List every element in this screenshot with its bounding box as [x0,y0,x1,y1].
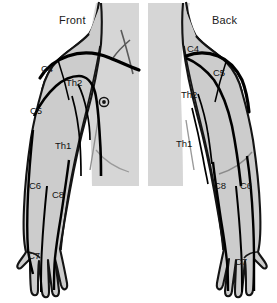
back-label-th2: Th2 [181,90,197,100]
front-label-c5: C5 [30,106,42,116]
back-panel-title: Back [212,14,237,26]
back-label-th1: Th1 [176,139,192,149]
front-label-th2: Th2 [66,78,82,88]
front-label-th1: Th1 [55,141,71,151]
back-label-c4: C4 [187,44,199,54]
front-panel-title: Front [59,14,86,26]
front-label-c8: C8 [52,190,64,200]
front-label-c6: C6 [29,181,41,191]
back-label-c8: C8 [214,181,226,191]
back-label-c7: C7 [235,257,247,267]
back-panel-graphic [148,2,267,297]
back-label-c6: C6 [240,181,252,191]
front-label-c7: C7 [28,251,40,261]
back-label-c5: C5 [213,68,225,78]
front-label-c4: C4 [41,64,53,74]
dermatome-figure: Front C4 Th2 C5 Th1 C6 C8 C7 Back C4 C5 … [0,0,277,303]
